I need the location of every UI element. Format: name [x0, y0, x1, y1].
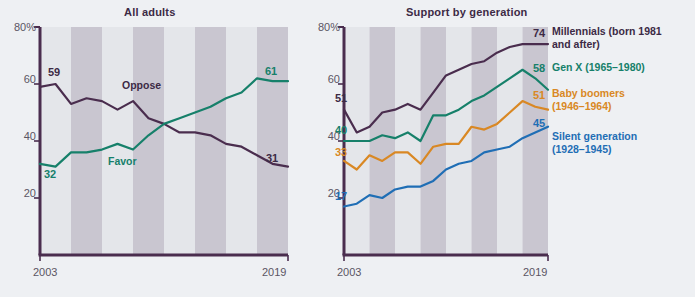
- xtick-label-start: 2003: [33, 266, 57, 278]
- ytick-label-40: 40: [2, 130, 36, 142]
- endpoint-label-genx-end: 58: [533, 62, 545, 74]
- background-band: [395, 27, 421, 255]
- background-band: [102, 27, 133, 255]
- background-band: [446, 27, 472, 255]
- background-band: [40, 27, 71, 255]
- legend-line-1: Millennials (born 1981: [552, 25, 662, 38]
- endpoint-label-boomers-start: 33: [335, 146, 347, 158]
- background-band: [421, 27, 447, 255]
- background-band: [71, 27, 102, 255]
- legend-entry-boomers: Baby boomers (1946–1964): [552, 87, 625, 112]
- legend-entry-millennials: Millennials (born 1981 and after): [552, 25, 662, 50]
- chart-panel-all-adults: All adults 80% 60 40 20 2003 2019 Oppose…: [0, 0, 340, 297]
- series-label-favor: Favor: [108, 155, 137, 167]
- ytick-label-60: 60: [2, 73, 36, 85]
- series-label-oppose: Oppose: [122, 79, 161, 91]
- legend-line-1: Silent generation: [552, 130, 637, 143]
- background-band: [226, 27, 257, 255]
- xtick-label-start: 2003: [337, 266, 361, 278]
- legend-line-1: Baby boomers: [552, 87, 625, 100]
- endpoint-label-silent-start: 17: [335, 190, 347, 202]
- chart-canvas-all-adults: [0, 0, 340, 297]
- endpoint-label-boomers-end: 51: [533, 89, 545, 101]
- xtick-label-end: 2019: [262, 266, 286, 278]
- ytick-label-80: 80%: [2, 21, 36, 33]
- figure-root: All adults 80% 60 40 20 2003 2019 Oppose…: [0, 0, 695, 297]
- legend-line-2: and after): [552, 38, 662, 51]
- endpoint-label-oppose-end: 31: [266, 152, 278, 164]
- background-band: [257, 27, 288, 255]
- xtick-label-end: 2019: [523, 266, 547, 278]
- ytick-label-20: 20: [2, 187, 36, 199]
- endpoint-label-silent-end: 45: [533, 117, 545, 129]
- background-band: [133, 27, 164, 255]
- endpoint-label-oppose-start: 59: [48, 66, 60, 78]
- legend-line-1: Gen X (1965–1980): [552, 61, 645, 74]
- legend-entry-silent: Silent generation (1928–1945): [552, 130, 637, 155]
- legend-line-2: (1946–1964): [552, 100, 625, 113]
- legend-entry-genx: Gen X (1965–1980): [552, 61, 645, 74]
- legend-line-2: (1928–1945): [552, 143, 637, 156]
- background-band: [370, 27, 396, 255]
- endpoint-label-millennials-end: 74: [533, 27, 545, 39]
- background-band: [164, 27, 195, 255]
- chart-panel-support-by-generation: Support by generation 80% 60 40 20 2003 …: [302, 0, 695, 297]
- ytick-label-80: 80%: [306, 21, 340, 33]
- ytick-label-60: 60: [306, 73, 340, 85]
- endpoint-label-favor-end: 61: [265, 65, 277, 77]
- endpoint-label-millennials-start: 51: [335, 92, 347, 104]
- endpoint-label-genx-start: 40: [335, 124, 347, 136]
- endpoint-label-favor-start: 32: [44, 168, 56, 180]
